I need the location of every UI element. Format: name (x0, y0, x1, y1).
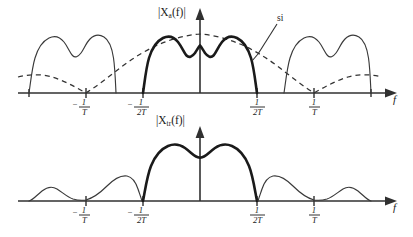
spectra-figure: si |Xa(f)| f − 1 T − 1 2T 1 2T (0, 0, 413, 237)
upper-right-replica-curve (284, 35, 371, 93)
svg-text:−: − (72, 99, 78, 109)
si-annotation-label: si (277, 13, 284, 23)
svg-text:T: T (82, 215, 88, 225)
svg-text:T: T (312, 107, 318, 117)
svg-text:1: 1 (82, 205, 86, 215)
lower-plot: |Xtr(f)| f − 1 T − 1 2T 1 2T 1 T (18, 114, 398, 225)
lower-tick-label-1-over-T: 1 T (309, 205, 320, 225)
svg-text:−: − (72, 207, 78, 217)
upper-tick-label-1-over-2T: 1 2T (250, 97, 265, 117)
upper-y-arrowhead (196, 8, 205, 20)
lower-y-arrowhead (196, 126, 205, 138)
svg-text:−: − (127, 99, 133, 109)
svg-text:1: 1 (139, 97, 143, 107)
upper-left-replica-curve (29, 35, 116, 93)
svg-text:1: 1 (255, 97, 259, 107)
svg-text:T: T (312, 215, 318, 225)
svg-text:1: 1 (139, 205, 143, 215)
svg-text:1: 1 (312, 97, 316, 107)
upper-axis-title-group: |Xa(f)| (158, 6, 186, 20)
lower-horizontal-axis (18, 197, 397, 206)
lower-axis-title-group: |Xtr(f)| (156, 114, 185, 128)
lower-horizontal-axis-label: f (393, 201, 398, 213)
svg-text:2T: 2T (137, 107, 147, 117)
upper-vertical-axis-label: |Xa(f)| (158, 6, 186, 20)
figure-container: si |Xa(f)| f − 1 T − 1 2T 1 2T (0, 0, 413, 237)
svg-text:1: 1 (255, 205, 259, 215)
lower-tick-label-1-over-2T: 1 2T (250, 205, 265, 225)
upper-tick-label-minus-1-over-T: − 1 T (72, 97, 90, 117)
upper-tick-label-minus-1-over-2T: − 1 2T (127, 97, 149, 117)
svg-text:−: − (127, 207, 133, 217)
svg-text:T: T (82, 107, 88, 117)
upper-horizontal-axis-label: f (393, 93, 398, 105)
upper-tick-label-1-over-T: 1 T (309, 97, 320, 117)
lower-vertical-axis (196, 126, 205, 201)
svg-text:1: 1 (82, 97, 86, 107)
svg-text:2T: 2T (253, 107, 263, 117)
upper-plot: si |Xa(f)| f − 1 T − 1 2T 1 2T (18, 6, 398, 117)
svg-text:1: 1 (312, 205, 316, 215)
si-annotation-group: si (252, 13, 284, 61)
svg-text:2T: 2T (137, 215, 147, 225)
lower-tick-label-minus-1-over-T: − 1 T (72, 205, 90, 225)
upper-horizontal-axis (18, 89, 397, 98)
lower-vertical-axis-label: |Xtr(f)| (156, 114, 185, 128)
lower-tick-label-minus-1-over-2T: − 1 2T (127, 205, 149, 225)
svg-text:2T: 2T (253, 215, 263, 225)
